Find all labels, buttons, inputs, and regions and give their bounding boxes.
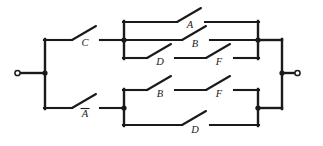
switch-d-bottom-group[interactable]: D [123,111,259,135]
switch-a-not-group[interactable]: A [44,94,125,119]
output-terminal-group [279,70,300,75]
switch-f-bottom-group[interactable]: F [206,76,259,99]
a-not-blade [72,94,96,108]
bottom-left-junction-node [121,105,126,110]
output-terminal-icon [295,70,300,75]
switch-a-not-label: A [81,108,89,119]
switch-a-group[interactable]: A [123,8,259,30]
switch-c-label: C [81,37,89,48]
switch-f-bottom-label: F [215,88,223,99]
switch-d-top-label: D [155,56,164,67]
d-bottom-blade [182,111,206,125]
switch-d-bottom-label: D [190,124,199,135]
bottom-bank-left-column [121,89,126,126]
switch-c-group[interactable]: C [44,26,125,48]
output-junction-node [279,70,284,75]
output-collector-group [257,39,282,109]
switch-f-top-group[interactable]: F [206,44,259,67]
switch-b-bottom-group[interactable]: B [123,76,206,99]
circuit-schematic: C A A B [0,0,323,146]
switch-f-top-label: F [215,56,223,67]
switch-b-bottom-label: B [157,88,164,99]
switching-circuit-figure: C A A B [0,0,323,146]
input-terminal-group [15,70,48,75]
input-terminal-icon [15,70,20,75]
switch-a-label: A [186,19,194,30]
switch-b-top-label: B [192,38,199,49]
